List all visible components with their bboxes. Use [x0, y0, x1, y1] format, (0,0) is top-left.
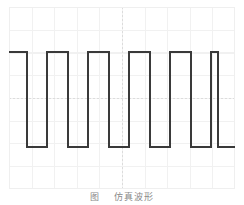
square-wave-polyline [9, 52, 235, 147]
figure-container: 图仿真波形 [0, 0, 244, 205]
figure-caption: 图仿真波形 [0, 192, 244, 203]
caption-text: 仿真波形 [114, 192, 154, 202]
waveform-plot-area [9, 7, 235, 189]
caption-number: 图 [90, 192, 100, 202]
square-wave-trace [9, 7, 235, 189]
